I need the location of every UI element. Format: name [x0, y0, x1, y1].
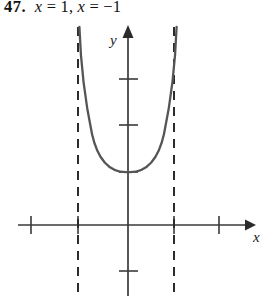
graph-figure: y x [0, 18, 261, 299]
answer-number: 47. [4, 0, 26, 16]
answer-var-2: x [78, 0, 86, 16]
x-axis-label: x [252, 229, 260, 245]
figure-page: 47. x = 1, x = −1 [0, 0, 261, 299]
answer-value-1: 1 [60, 0, 68, 16]
y-axis-arrowhead [123, 25, 134, 38]
answer-value-2: −1 [103, 0, 121, 16]
answer-rel-1: = [47, 0, 57, 16]
y-axis-label: y [108, 32, 117, 48]
answer-text: 47. x = 1, x = −1 [4, 0, 121, 17]
answer-rel-2: = [89, 0, 99, 16]
